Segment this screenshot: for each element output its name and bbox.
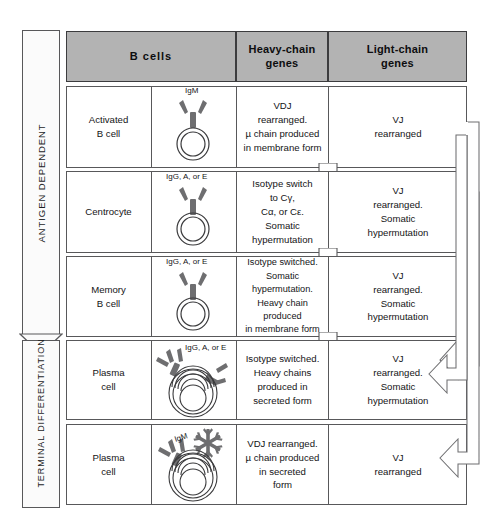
row5-cell-name: Plasma cell xyxy=(66,424,151,505)
row1-heavy-chain: VDJ rearranged. µ chain produced in memb… xyxy=(237,86,328,168)
row1-cell-name-line1: Activated xyxy=(89,114,128,125)
terminal-differentiation-text: TERMINAL DIFFERENTIATION xyxy=(36,338,46,487)
header-b-cells-label: B cells xyxy=(130,50,172,64)
row2-heavy-chain: Isotype switch to Cγ, Cα, or Cε. Somatic… xyxy=(237,171,328,253)
row1-cell-name-line2: B cell xyxy=(97,128,120,139)
row4-antibody-label: IgG, A, or E xyxy=(185,343,226,352)
row2-heavy-chain-text: Isotype switch to Cγ, Cα, or Cε. Somatic… xyxy=(252,177,313,247)
row2-antibody-label: IgG, A, or E xyxy=(166,172,207,181)
antigen-dependent-text: ANTIGEN DEPENDENT xyxy=(36,123,47,242)
row3-antibody-label: IgG, A, or E xyxy=(166,257,207,266)
header-b-cells: B cells xyxy=(66,31,236,82)
header-heavy-chain-line2: genes xyxy=(266,57,299,69)
row4-cell-name-line2: cell xyxy=(101,381,115,392)
row2-cell-name-line1: Centrocyte xyxy=(85,205,131,219)
row2-cell-name: Centrocyte xyxy=(66,171,151,253)
row3-heavy-chain: Isotype switched. Somatic hypermutation.… xyxy=(237,256,328,337)
row5-heavy-chain-text: VDJ rearranged. µ chain produced in secr… xyxy=(246,437,320,493)
row4-cell-name: Plasma cell xyxy=(66,340,151,420)
header-light-chain-line2: genes xyxy=(381,57,414,69)
secreting-plasma-cell-pentamer-icon: IgM xyxy=(152,425,235,503)
membrane-ig-cell-icon: IgM xyxy=(152,88,235,166)
header-heavy-chain-genes: Heavy-chain genes xyxy=(236,31,328,82)
membrane-ig-cell-icon: IgG, A, or E xyxy=(152,258,235,336)
recycle-arrow-group xyxy=(395,100,485,480)
secreting-plasma-cell-icon: IgG, A, or E xyxy=(152,341,235,419)
row4-cell-name-line1: Plasma xyxy=(93,367,125,378)
figure-canvas: ANTIGEN DEPENDENT TERMINAL DIFFERENTIATI… xyxy=(0,0,485,522)
row3-heavy-chain-text: Isotype switched. Somatic hypermutation.… xyxy=(240,256,325,336)
row5-cell-name-line2: cell xyxy=(101,466,115,477)
membrane-ig-cell-icon: IgG, A, or E xyxy=(152,173,235,251)
header-light-chain-line1: Light-chain xyxy=(367,43,428,55)
row4-heavy-chain-text: Isotype switched. Heavy chains produced … xyxy=(246,352,320,408)
row3-cell-name-line1: Memory xyxy=(91,284,126,295)
row5-cell-name-line1: Plasma xyxy=(93,452,125,463)
row1-cell-name: Activated B cell xyxy=(66,86,151,168)
row3-cell-name-line2: B cell xyxy=(97,298,120,309)
antigen-dependent-label: ANTIGEN DEPENDENT xyxy=(22,30,60,335)
row1-antibody-label: IgM xyxy=(185,86,198,95)
row1-heavy-chain-text: VDJ rearranged. µ chain produced in memb… xyxy=(244,99,322,155)
header-light-chain-genes: Light-chain genes xyxy=(328,31,467,82)
header-heavy-chain-line1: Heavy-chain xyxy=(248,43,315,55)
row4-heavy-chain: Isotype switched. Heavy chains produced … xyxy=(237,340,328,420)
terminal-differentiation-label: TERMINAL DIFFERENTIATION xyxy=(22,318,60,508)
row5-heavy-chain: VDJ rearranged. µ chain produced in secr… xyxy=(237,424,328,505)
row3-cell-name: Memory B cell xyxy=(66,256,151,337)
